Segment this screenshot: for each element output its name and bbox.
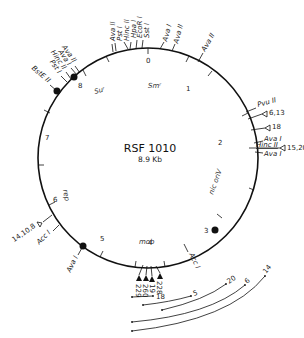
insertion-19: 19 [148, 284, 156, 293]
site-hinc2-right: Hinc II [256, 141, 278, 149]
site-pvu2: Pvu II [256, 96, 277, 109]
deletion-6: 6 [243, 276, 252, 285]
marker-15-20: 15,20 [287, 144, 304, 152]
left-triangle-marker [37, 222, 42, 227]
gene-mob: mob [139, 238, 155, 246]
tick-0: 0 [146, 57, 150, 65]
tick-3: 3 [204, 227, 208, 235]
deletion-5: 5 [192, 289, 199, 298]
site-ava2-top: Ava II [172, 24, 185, 46]
site-acc1-bl: Acc I [34, 229, 52, 247]
deletion-18: 18 [156, 293, 165, 301]
tick-1: 1 [186, 85, 190, 93]
gene-su: Suʳ [93, 85, 107, 96]
plasmid-name: RSF 1010 [124, 142, 176, 155]
tick-2: 2 [218, 139, 222, 147]
site-ava1-bl: Ava I [65, 254, 80, 274]
site-sst1: Sst I [143, 23, 151, 38]
tick-5: 5 [100, 235, 104, 243]
marker-18: 18 [272, 123, 281, 131]
deletion-20: 20 [226, 274, 238, 286]
marker-dot [212, 227, 219, 234]
plasmid-size: 8.9 Kb [138, 155, 162, 164]
marker-line-left [43, 215, 52, 222]
site-ava1-right-2: Ava I [263, 150, 282, 158]
site-line-acc1-bl [53, 225, 59, 231]
marker-6-13: 6,13 [269, 109, 285, 117]
site-ava1-top: Ava I [161, 24, 174, 44]
tick-8: 8 [78, 82, 82, 90]
gene-rep: rep [61, 189, 71, 202]
plasmid-map: 0 1 2 3 4 5 6 7 8 RSF 1010 8.9 Kb Smʳ Su… [0, 0, 304, 338]
insertion-229: 229 [134, 284, 142, 297]
site-line-acc1-br [184, 244, 188, 252]
site-ava2-right: Ava II [199, 32, 216, 54]
deletion-14: 14 [261, 263, 273, 275]
insertion-lines [139, 265, 160, 276]
gene-nic-oriv: nic oriV [207, 167, 224, 196]
insertion-260: 260 [141, 284, 149, 297]
site-bste2: BstE II [30, 64, 52, 84]
tick-6: 6 [53, 196, 58, 204]
gene-sm: Smʳ [148, 82, 162, 90]
marker-14-10-8: 14,10,8 [11, 222, 37, 244]
tick-7: 7 [45, 134, 49, 142]
